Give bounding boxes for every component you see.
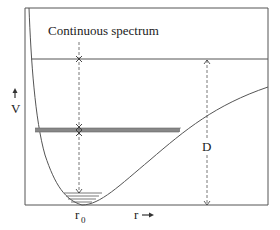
- equilibrium-distance-subscript: 0: [81, 215, 86, 225]
- morse-diagram: Continuous spectrum D V r r 0: [0, 0, 280, 230]
- x-axis-label: r: [134, 207, 139, 222]
- vibrational-levels: [64, 193, 102, 202]
- equilibrium-distance-label: r: [75, 207, 80, 222]
- dense-levels-band: [35, 128, 180, 132]
- y-axis-label: V: [11, 101, 21, 116]
- continuous-spectrum-label: Continuous spectrum: [48, 23, 159, 38]
- x-axis-arrow-icon: [142, 213, 154, 218]
- dissociation-label: D: [202, 139, 211, 154]
- y-axis-arrow-icon: [13, 88, 18, 98]
